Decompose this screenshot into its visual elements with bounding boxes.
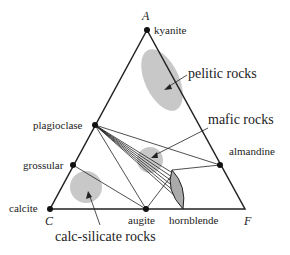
calcite-label: calcite (9, 203, 38, 214)
calc-silicate-field (70, 171, 102, 203)
pelitic-field (133, 43, 192, 117)
grossular-label: grossular (23, 160, 63, 171)
augite-label: augite (128, 215, 155, 226)
vertex-f-label: F (244, 215, 251, 227)
mafic-rocks-label: mafic rocks (208, 113, 274, 127)
acf-diagram: A C F kyanite plagioclase grossular calc… (0, 0, 290, 255)
plagioclase-label: plagioclase (33, 120, 82, 131)
almandine-label: almandine (229, 146, 275, 157)
kyanite-label: kyanite (154, 25, 186, 36)
hornblende-field (170, 170, 184, 209)
calc-silicate-rocks-label: calc-silicate rocks (55, 230, 156, 244)
hornblende-label: hornblende (169, 215, 218, 226)
vertex-a-label: A (142, 10, 149, 22)
vertex-c-label: C (45, 215, 53, 227)
mafic-field (137, 147, 163, 173)
pelitic-rocks-label: pelitic rocks (188, 67, 257, 81)
